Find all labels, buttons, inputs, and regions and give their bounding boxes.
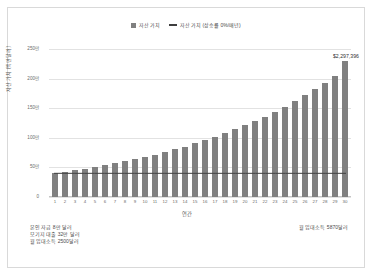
bar[interactable]	[52, 173, 58, 197]
bar[interactable]	[172, 149, 178, 197]
bar[interactable]	[192, 143, 198, 197]
bar[interactable]	[332, 76, 338, 197]
x-axis-tick-label: 27	[310, 199, 320, 204]
bar[interactable]	[122, 161, 128, 197]
bar[interactable]	[272, 112, 278, 197]
bar-cell	[100, 49, 110, 197]
x-axis-tick-label: 28	[320, 199, 330, 204]
bar[interactable]	[62, 172, 68, 197]
bar[interactable]	[342, 61, 348, 197]
bar-cell	[300, 49, 310, 197]
bar-cell	[200, 49, 210, 197]
caption-line: 본인 자금 8만 달러	[30, 224, 80, 231]
x-axis-tick-label: 26	[300, 199, 310, 204]
caption-line: 모기지 대출 32만 달러	[30, 231, 80, 238]
gridline	[49, 197, 351, 198]
bar[interactable]	[102, 165, 108, 197]
bar[interactable]	[252, 121, 258, 197]
bar-cell	[270, 49, 280, 197]
bar-cell	[90, 49, 100, 197]
bar-cell	[140, 49, 150, 197]
x-axis-tick-label: 24	[280, 199, 290, 204]
bar[interactable]	[262, 117, 268, 198]
bar-cell	[340, 49, 350, 197]
legend-item-asset-value-zero-growth[interactable]: 자산 가치 (상승률 0%/매년)	[169, 22, 241, 28]
bar[interactable]	[212, 137, 218, 197]
x-axis-tick-label: 23	[270, 199, 280, 204]
x-axis-tick-label: 18	[220, 199, 230, 204]
x-axis-tick-label: 9	[130, 199, 140, 204]
y-axis-tick-label: 50만	[8, 165, 39, 170]
bar[interactable]	[182, 147, 188, 198]
bar-cell	[210, 49, 220, 197]
bar-cell	[80, 49, 90, 197]
x-axis-tick-label: 7	[110, 199, 120, 204]
x-axis-tick-label: 3	[70, 199, 80, 204]
bar[interactable]	[162, 152, 168, 197]
bar-cell	[320, 49, 330, 197]
bar-cell	[150, 49, 160, 197]
x-axis-tick-label: 17	[210, 199, 220, 204]
bar[interactable]	[112, 163, 118, 197]
x-axis-tick-label: 2	[60, 199, 70, 204]
x-axis-tick-label: 20	[240, 199, 250, 204]
bar-cell	[110, 49, 120, 197]
legend-item-asset-value[interactable]: 자산 가치	[131, 22, 160, 28]
chart-figure: 자산 가치 자산 가치 (상승률 0%/매년) 자산 가치 (백만달러) 050…	[7, 7, 365, 268]
x-axis-tick-label: 6	[100, 199, 110, 204]
x-axis-tick-label: 15	[190, 199, 200, 204]
bar-cell	[250, 49, 260, 197]
x-axis-tick-label: 16	[200, 199, 210, 204]
bar-cell	[290, 49, 300, 197]
bar-cell	[120, 49, 130, 197]
bar[interactable]	[302, 95, 308, 197]
bar[interactable]	[142, 157, 148, 197]
x-axis-title: 연간	[8, 211, 366, 217]
x-axis-tick-label: 25	[290, 199, 300, 204]
bar-cell	[180, 49, 190, 197]
bar-cell	[310, 49, 320, 197]
bar[interactable]	[312, 89, 318, 197]
bar[interactable]	[222, 133, 228, 197]
bar-series	[49, 49, 351, 197]
bar[interactable]	[202, 140, 208, 197]
x-axis-tick-label: 19	[230, 199, 240, 204]
x-axis-tick-label: 14	[180, 199, 190, 204]
x-axis-tick-label: 1	[50, 199, 60, 204]
bar-cell	[240, 49, 250, 197]
bar[interactable]	[322, 83, 328, 197]
bar-swatch-icon	[131, 23, 136, 28]
bar[interactable]	[282, 107, 288, 197]
bar[interactable]	[72, 170, 78, 197]
bar-cell	[130, 49, 140, 197]
x-axis-tick-label: 4	[80, 199, 90, 204]
bar[interactable]	[92, 167, 98, 197]
bar[interactable]	[82, 169, 88, 197]
bar[interactable]	[232, 129, 238, 197]
x-axis-tick-label: 22	[260, 199, 270, 204]
bar-cell	[220, 49, 230, 197]
plot-area	[49, 49, 351, 197]
x-axis-tick-label: 10	[140, 199, 150, 204]
bar[interactable]	[242, 125, 248, 197]
y-axis-tick-label: 250만	[8, 46, 39, 51]
data-label-max-value: $2,297,396	[316, 53, 374, 59]
x-axis-tick-label: 11	[150, 199, 160, 204]
bar-cell	[190, 49, 200, 197]
x-axis-tick-label: 21	[250, 199, 260, 204]
bar[interactable]	[152, 155, 158, 197]
bar-cell	[60, 49, 70, 197]
x-axis-tick-label: 12	[160, 199, 170, 204]
bar-cell	[330, 49, 340, 197]
bar[interactable]	[132, 159, 138, 197]
bar-cell	[70, 49, 80, 197]
y-axis-tick-label: 200만	[8, 76, 39, 81]
caption-line: 월 임대소득 5870달러	[299, 224, 348, 231]
bar-cell	[230, 49, 240, 197]
x-axis-tick-label: 8	[120, 199, 130, 204]
bar[interactable]	[292, 101, 298, 197]
y-axis-tick-label: 0	[8, 194, 39, 199]
legend-label-asset-value: 자산 가치	[139, 22, 160, 28]
x-axis-ticks: 1234567891011121314151617181920212223242…	[49, 199, 351, 204]
legend-label-asset-value-zero-growth: 자산 가치 (상승률 0%/매년)	[180, 22, 241, 28]
